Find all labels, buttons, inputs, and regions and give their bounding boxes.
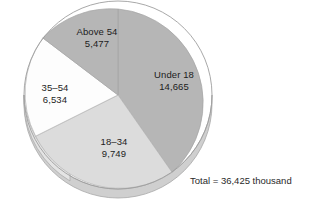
pie-label-above-54: Above 54 5,477 (57, 26, 137, 49)
pie-total-caption: Total = 36,425 thousand (190, 175, 292, 187)
pie-label-18-34-category: 18–34 (77, 136, 151, 148)
pie-label-under-18: Under 18 14,665 (137, 69, 211, 92)
pie-label-35-54-category: 35–54 (24, 82, 86, 94)
pie-label-above-54-category: Above 54 (57, 26, 137, 38)
pie-label-under-18-value: 14,665 (137, 81, 211, 93)
pie-label-above-54-value: 5,477 (57, 38, 137, 50)
pie-label-35-54-value: 6,534 (24, 94, 86, 106)
pie-label-18-34-value: 9,749 (77, 148, 151, 160)
pie-label-35-54: 35–54 6,534 (24, 82, 86, 105)
pie-label-18-34: 18–34 9,749 (77, 136, 151, 159)
pie-chart-figure: Under 18 14,665 18–34 9,749 35–54 6,534 … (0, 0, 327, 213)
pie-label-under-18-category: Under 18 (137, 69, 211, 81)
